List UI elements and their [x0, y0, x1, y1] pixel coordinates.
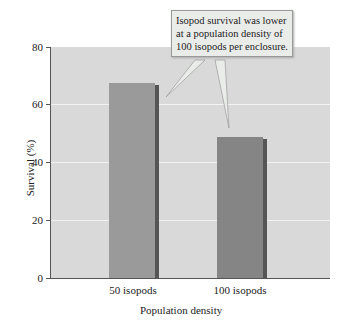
annotation-callout: Isopod survival was lower at a populatio… [171, 10, 293, 57]
